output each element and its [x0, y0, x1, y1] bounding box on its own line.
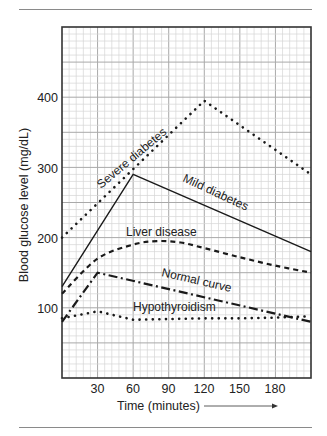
- x-axis-label: Time (minutes): [117, 399, 200, 413]
- label-normal-curve: Normal curve: [160, 265, 233, 295]
- x-axis-ticks: 30 60 90 120 150 180: [91, 382, 286, 396]
- x-tick-180: 180: [265, 382, 286, 396]
- glucose-tolerance-chart: 400 300 200 100 30 60 90 120 150 180 Tim…: [0, 0, 327, 436]
- grid: [62, 27, 311, 378]
- curves: [62, 101, 311, 322]
- x-tick-90: 90: [162, 382, 176, 396]
- label-hypothyroidism: Hypothyroidism: [133, 300, 216, 314]
- x-tick-60: 60: [126, 382, 140, 396]
- x-tick-120: 120: [194, 382, 215, 396]
- y-tick-200: 200: [37, 232, 58, 246]
- curve-severe-diabetes: [62, 101, 311, 238]
- x-tick-30: 30: [91, 382, 105, 396]
- y-tick-300: 300: [37, 162, 58, 176]
- label-liver-disease: Liver disease: [126, 225, 197, 239]
- y-axis-label: Blood glucose level (mg/dL): [17, 128, 31, 282]
- x-tick-150: 150: [229, 382, 250, 396]
- y-axis-ticks: 400 300 200 100: [37, 91, 58, 316]
- y-tick-400: 400: [37, 91, 58, 105]
- y-tick-100: 100: [37, 302, 58, 316]
- arrow-right-icon: [204, 404, 278, 409]
- curve-liver-disease: [62, 241, 311, 294]
